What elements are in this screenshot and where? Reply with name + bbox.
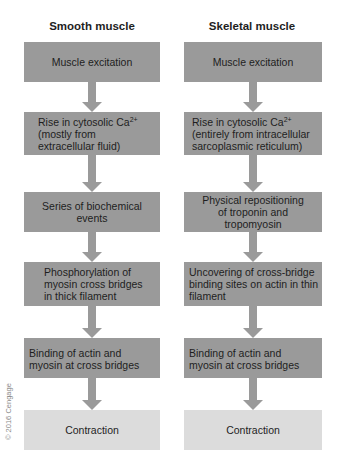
- smooth-step-biochemical-events: Series of biochemical events: [24, 192, 160, 232]
- arrow-down-icon: [243, 232, 263, 262]
- skeletal-step-uncovering-binding-sites: Uncovering of cross-bridge binding sites…: [184, 262, 322, 306]
- smooth-step-contraction: Contraction: [24, 410, 160, 450]
- arrow-down-icon: [82, 378, 102, 410]
- arrow-down-icon: [243, 155, 263, 192]
- smooth-muscle-title: Smooth muscle: [24, 20, 160, 32]
- arrow-down-icon: [243, 82, 263, 112]
- arrow-down-icon: [243, 306, 263, 338]
- arrow-down-icon: [82, 155, 102, 192]
- smooth-step-binding-actin-myosin: Binding of actin and myosin at cross bri…: [24, 338, 160, 378]
- skeletal-step-contraction: Contraction: [184, 410, 322, 450]
- skeletal-step-repositioning: Physical repositioning of troponin and t…: [184, 192, 322, 232]
- arrow-down-icon: [82, 82, 102, 112]
- arrow-down-icon: [243, 378, 263, 410]
- smooth-step-muscle-excitation: Muscle excitation: [24, 42, 160, 82]
- skeletal-step-muscle-excitation: Muscle excitation: [184, 42, 322, 82]
- smooth-step-rise-calcium: Rise in cytosolic Ca2+(mostly from extra…: [24, 112, 160, 155]
- copyright-notice: © 2016 Cengage: [4, 383, 13, 440]
- smooth-step-phosphorylation: Phosphorylation of myosin cross bridges …: [24, 262, 160, 306]
- skeletal-step-rise-calcium: Rise in cytosolic Ca2+(entirely from int…: [184, 112, 322, 155]
- arrow-down-icon: [82, 306, 102, 338]
- skeletal-muscle-title: Skeletal muscle: [184, 20, 320, 32]
- arrow-down-icon: [82, 232, 102, 262]
- skeletal-step-binding-actin-myosin: Binding of actin and myosin at cross bri…: [184, 338, 322, 378]
